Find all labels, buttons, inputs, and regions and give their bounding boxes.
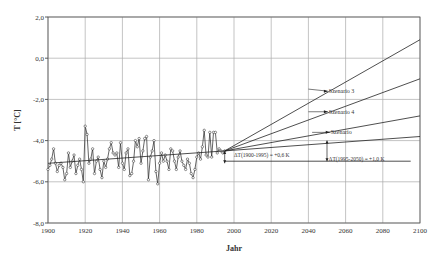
x-tick-label: 1980	[190, 227, 205, 235]
data-series	[47, 40, 420, 185]
y-tick-labels: 2,00,0-2,0-4,0-6,0-8,0	[33, 14, 45, 228]
y-axis-label: T [°C]	[13, 109, 22, 131]
data-point-marker	[194, 168, 196, 170]
annotation-label: Szenario 4	[329, 109, 355, 115]
data-point-marker	[58, 164, 60, 166]
x-tick-label: 1920	[78, 227, 93, 235]
data-point-marker	[77, 164, 79, 166]
data-point-marker	[117, 166, 119, 168]
data-point-marker	[181, 160, 183, 162]
data-point-marker	[170, 148, 172, 150]
data-point-marker	[166, 160, 168, 162]
data-point-marker	[158, 162, 160, 164]
x-tick-label: 2040	[301, 227, 316, 235]
data-point-marker	[75, 172, 77, 174]
data-point-marker	[110, 141, 112, 143]
grid	[48, 17, 420, 223]
data-point-marker	[112, 152, 114, 154]
y-tick-label: -4,0	[33, 137, 45, 145]
data-point-marker	[145, 135, 147, 137]
data-point-marker	[101, 176, 103, 178]
data-point-marker	[84, 125, 86, 127]
data-point-marker	[129, 174, 131, 176]
data-point-marker	[131, 172, 133, 174]
data-point-marker	[199, 158, 201, 160]
data-point-marker	[80, 168, 82, 170]
data-point-marker	[91, 148, 93, 150]
data-point-marker	[93, 172, 95, 174]
data-point-marker	[103, 160, 105, 162]
data-point-marker	[123, 168, 125, 170]
data-point-marker	[62, 166, 64, 168]
data-point-marker	[82, 181, 84, 183]
data-point-marker	[192, 176, 194, 178]
data-point-marker	[218, 148, 220, 150]
data-point-marker	[184, 168, 186, 170]
data-point-marker	[188, 162, 190, 164]
data-point-marker	[114, 154, 116, 156]
data-point-marker	[214, 131, 216, 133]
x-tick-label: 2100	[413, 227, 428, 235]
data-point-marker	[116, 152, 118, 154]
data-point-marker	[203, 129, 205, 131]
x-tick-label: 2080	[376, 227, 391, 235]
annotation-label: Szenario	[331, 129, 352, 135]
y-tick-label: 0,0	[35, 55, 44, 63]
series-line	[225, 79, 420, 151]
data-point-marker	[49, 164, 51, 166]
x-axis-label: Jahr	[226, 244, 242, 253]
data-point-marker	[108, 148, 110, 150]
data-point-marker	[56, 170, 58, 172]
data-point-marker	[64, 179, 66, 181]
data-point-marker	[216, 152, 218, 154]
data-point-marker	[171, 150, 173, 152]
data-point-marker	[65, 172, 67, 174]
data-point-marker	[162, 160, 164, 162]
annotation-label: ΔT(1900-1995) = +0,6 K	[234, 152, 290, 159]
data-point-marker	[69, 166, 71, 168]
data-point-marker	[142, 150, 144, 152]
data-point-marker	[190, 172, 192, 174]
data-point-marker	[67, 152, 69, 154]
data-point-marker	[140, 162, 142, 164]
axes	[45, 17, 420, 223]
data-point-marker	[125, 152, 127, 154]
data-point-marker	[205, 154, 207, 156]
data-point-marker	[201, 146, 203, 148]
x-tick-label: 1900	[41, 227, 56, 235]
data-point-marker	[88, 162, 90, 164]
data-point-marker	[153, 139, 155, 141]
bracket-arrow-down	[223, 160, 226, 163]
data-point-marker	[209, 131, 211, 133]
data-point-marker	[99, 168, 101, 170]
data-point-marker	[196, 156, 198, 158]
data-point-marker	[160, 152, 162, 154]
x-tick-label: 2000	[227, 227, 242, 235]
x-tick-label: 2020	[264, 227, 279, 235]
data-point-marker	[138, 137, 140, 139]
data-point-marker	[97, 156, 99, 158]
data-point-marker	[177, 156, 179, 158]
x-tick-labels: 1900192019401960198020002020204020602080…	[41, 227, 428, 235]
series-line	[225, 116, 420, 151]
x-tick-label: 2060	[339, 227, 354, 235]
annotation-label: ΔT(1995-2050) = +1,0 K	[329, 156, 385, 163]
data-point-marker	[175, 168, 177, 170]
data-point-marker	[183, 164, 185, 166]
x-tick-label: 1960	[153, 227, 168, 235]
data-point-marker	[52, 148, 54, 150]
data-point-marker	[47, 168, 49, 170]
data-point-marker	[136, 146, 138, 148]
data-point-marker	[157, 183, 159, 185]
y-tick-label: 2,0	[35, 14, 44, 22]
bracket-arrow-up	[326, 141, 329, 144]
data-point-marker	[144, 137, 146, 139]
data-point-marker	[73, 154, 75, 156]
data-point-marker	[121, 162, 123, 164]
data-point-marker	[155, 170, 157, 172]
y-tick-label: -6,0	[33, 178, 45, 186]
y-tick-label: -2,0	[33, 96, 45, 104]
series-line	[225, 137, 420, 151]
data-point-marker	[134, 139, 136, 141]
data-point-marker	[132, 160, 134, 162]
